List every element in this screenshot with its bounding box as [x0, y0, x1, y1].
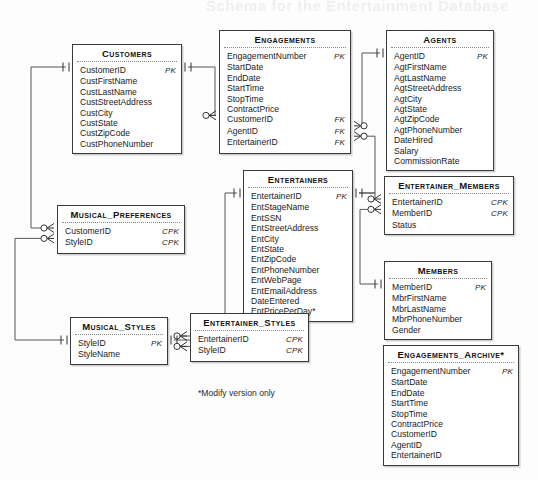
attribute-row: StyleIDCPK: [65, 237, 179, 248]
attribute-row: CustStreetAddress: [80, 97, 176, 107]
attribute-row: CustFirstName: [80, 76, 176, 86]
entity-entertainers[interactable]: EntertainersEntertainerIDPKEntStageNameE…: [243, 170, 353, 322]
attribute-row: EntertainerIDCPK: [392, 197, 508, 208]
attribute-row: CustomerIDFK: [227, 114, 345, 125]
attribute-name: StartDate: [227, 62, 273, 72]
attribute-row: AgtState: [394, 104, 488, 114]
attribute-row: EntStreetAddress: [251, 223, 347, 233]
entity-members[interactable]: MembersMemberIDPKMbrFirstNameMbrLastName…: [384, 261, 492, 340]
attribute-key-marker: PK: [151, 339, 162, 349]
attribute-row: EntZipCode: [251, 254, 347, 264]
attribute-name: EntertainerID: [392, 197, 453, 207]
attribute-name: EntertainerID: [227, 137, 288, 147]
entity-entertainer_members[interactable]: Entertainer_MembersEntertainerIDCPKMembe…: [384, 176, 514, 235]
attribute-row: Gender: [392, 325, 486, 335]
attribute-list: EntertainerIDCPKMemberIDCPKStatus: [385, 196, 513, 234]
attribute-name: StartTime: [391, 398, 438, 408]
entity-entertainer_styles[interactable]: Entertainer_StylesEntertainerIDCPKStyleI…: [190, 313, 309, 362]
attribute-row: DateHired: [394, 135, 488, 145]
entity-agents[interactable]: AgentsAgentIDPKAgtFirstNameAgtLastNameAg…: [386, 30, 494, 171]
attribute-row: EndDate: [227, 73, 345, 83]
entity-title-divider: [224, 47, 346, 48]
attribute-name: StyleName: [78, 349, 130, 359]
entity-title-divider: [75, 334, 163, 335]
attribute-row: EntEmailAddress: [251, 286, 347, 296]
attribute-row: CustZipCode: [80, 128, 176, 138]
attribute-name: AgentID: [391, 440, 432, 450]
attribute-name: EntState: [251, 244, 294, 254]
attribute-list: CustomerIDCPKStyleIDCPK: [58, 225, 184, 253]
attribute-name: DateEntered: [251, 296, 309, 306]
attribute-name: EntZipCode: [251, 254, 306, 264]
attribute-row: Status: [392, 220, 508, 230]
attribute-row: EngagementNumberPK: [227, 51, 345, 62]
attribute-row: EntSSN: [251, 213, 347, 223]
entity-title-divider: [195, 330, 304, 331]
attribute-row: EntertainerIDPK: [251, 191, 347, 202]
attribute-key-marker: PK: [477, 52, 488, 62]
attribute-name: EntPhoneNumber: [251, 265, 329, 275]
entity-title-entertainer_members: Entertainer_Members: [385, 177, 513, 193]
entity-musical_preferences[interactable]: Musical_PreferencesCustomerIDCPKStyleIDC…: [57, 205, 185, 254]
entity-title-entertainers: Entertainers: [244, 171, 352, 187]
entity-title-divider: [391, 47, 489, 48]
attribute-row: StartTime: [391, 398, 513, 408]
attribute-key-marker: FK: [334, 127, 345, 137]
attribute-row: MbrLastName: [392, 304, 486, 314]
attribute-key-marker: CPK: [286, 335, 303, 345]
attribute-row: AgentIDPK: [394, 51, 488, 62]
attribute-row: CustLastName: [80, 87, 176, 97]
entity-title-engagements_archive: Engagements_Archive*: [384, 346, 518, 362]
attribute-name: EntCity: [251, 234, 289, 244]
attribute-key-marker: PK: [502, 367, 513, 377]
attribute-row: DateEntered: [251, 296, 347, 306]
attribute-row: MemberIDPK: [392, 282, 486, 293]
attribute-name: AgtPhoneNumber: [394, 125, 472, 135]
attribute-row: Salary: [394, 146, 488, 156]
attribute-name: CustCity: [80, 108, 122, 118]
attribute-key-marker: PK: [336, 192, 347, 202]
attribute-row: AgtCity: [394, 94, 488, 104]
entity-title-divider: [388, 362, 514, 363]
attribute-row: CustState: [80, 118, 176, 128]
attribute-name: AgtLastName: [394, 73, 456, 83]
entity-customers[interactable]: CustomersCustomerIDPKCustFirstNameCustLa…: [72, 44, 182, 154]
entity-title-divider: [389, 193, 509, 194]
attribute-name: CustPhoneNumber: [80, 139, 163, 149]
attribute-row: ContractPrice: [391, 419, 513, 429]
attribute-name: EntSSN: [251, 213, 292, 223]
attribute-row: MbrFirstName: [392, 293, 486, 303]
attribute-name: MbrFirstName: [392, 293, 456, 303]
attribute-row: StopTime: [227, 94, 345, 104]
attribute-key-marker: CPK: [162, 238, 179, 248]
attribute-name: Gender: [392, 325, 431, 335]
attribute-name: MemberID: [392, 282, 442, 292]
attribute-row: ContractPrice: [227, 104, 345, 114]
entity-title-divider: [248, 187, 348, 188]
attribute-key-marker: CPK: [286, 346, 303, 356]
attribute-row: StartDate: [227, 62, 345, 72]
attribute-name: CustZipCode: [80, 128, 140, 138]
attribute-name: StartTime: [227, 83, 274, 93]
attribute-name: StartDate: [391, 377, 437, 387]
attribute-row: EntStageName: [251, 202, 347, 212]
entity-engagements[interactable]: EngagementsEngagementNumberPKStartDateEn…: [219, 30, 351, 154]
attribute-name: ContractPrice: [391, 419, 453, 429]
entity-engagements_archive[interactable]: Engagements_Archive*EngagementNumberPKSt…: [383, 345, 519, 466]
attribute-row: AgtLastName: [394, 73, 488, 83]
attribute-name: EntertainerID: [198, 334, 259, 344]
attribute-name: AgentID: [227, 126, 268, 136]
attribute-row: EntertainerID: [391, 450, 513, 460]
entity-title-members: Members: [385, 262, 491, 278]
attribute-row: EndDate: [391, 388, 513, 398]
attribute-key-marker: FK: [334, 138, 345, 148]
attribute-row: CustCity: [80, 108, 176, 118]
attribute-row: AgtStreetAddress: [394, 83, 488, 93]
attribute-list: AgentIDPKAgtFirstNameAgtLastNameAgtStree…: [387, 50, 493, 170]
modify-version-footnote: *Modify version only: [198, 388, 275, 398]
attribute-key-marker: PK: [334, 52, 345, 62]
attribute-name: EngagementNumber: [227, 51, 316, 61]
attribute-row: MemberIDCPK: [392, 208, 508, 219]
entity-musical_styles[interactable]: Musical_StylesStyleIDPKStyleName: [70, 317, 168, 365]
attribute-name: EntertainerID: [251, 191, 312, 201]
